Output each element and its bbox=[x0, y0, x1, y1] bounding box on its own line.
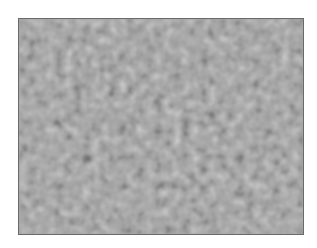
noise-texture-image bbox=[18, 18, 304, 235]
noise-texture-svg bbox=[19, 19, 303, 234]
image-canvas bbox=[0, 0, 317, 248]
texture-noise bbox=[19, 19, 303, 234]
